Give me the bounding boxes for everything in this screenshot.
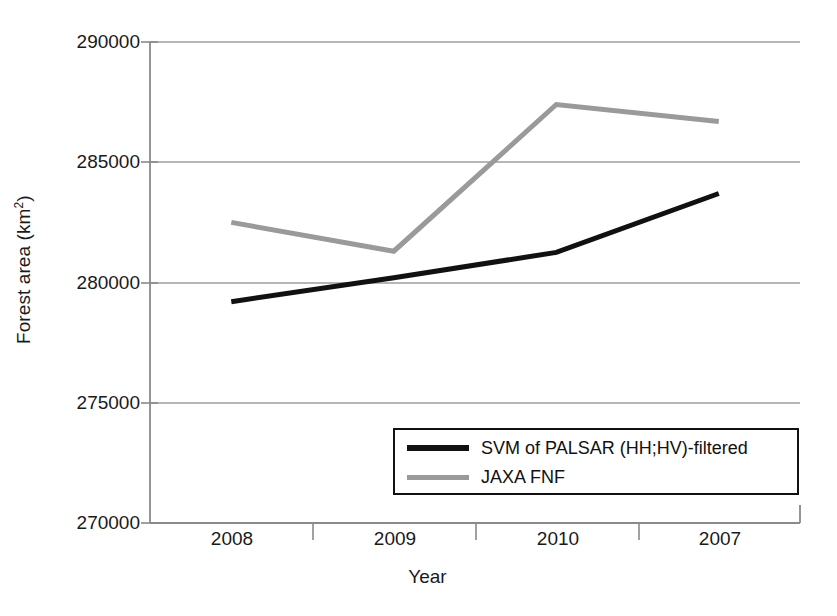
legend-label-jaxa-fnf: JAXA FNF [481,467,565,488]
x-axis-title-text: Year [408,566,446,587]
x-tick-label: 2008 [211,528,253,550]
legend-label-svm-palsar: SVM of PALSAR (HH;HV)-filtered [481,438,748,459]
x-tick-label: 2009 [374,528,416,550]
legend-item-svm-palsar: SVM of PALSAR (HH;HV)-filtered [407,435,748,461]
series-line-svm-palsar [231,194,719,302]
chart-legend: SVM of PALSAR (HH;HV)-filtered JAXA FNF [393,428,799,495]
gridlines [150,42,800,403]
series-line-jaxa-fnf [231,105,719,252]
x-tick-label: 2010 [537,528,579,550]
plot-area [0,0,837,616]
legend-swatch-jaxa-fnf [407,475,469,480]
x-tick-marks [313,523,639,540]
legend-swatch-svm-palsar [407,445,469,451]
legend-item-jaxa-fnf: JAXA FNF [407,464,565,490]
x-axis-title: Year [0,566,837,588]
x-tick-label: 2007 [699,528,741,550]
chart-figure: Forest area (km2) 290000 285000 280000 2… [0,0,837,616]
